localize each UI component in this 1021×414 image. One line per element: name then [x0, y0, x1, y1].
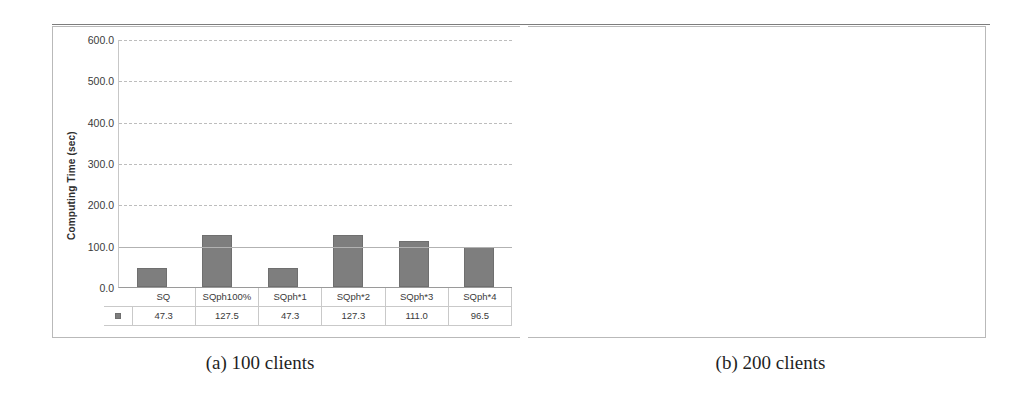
panel-a-category-label: SQph*3 — [385, 288, 448, 307]
panel-a-value-label: 111.0 — [385, 307, 448, 326]
panel-a-y-tick-label: 400.0 — [88, 117, 114, 128]
panel-a-table-header-spacer — [104, 288, 132, 307]
panel-a-bar-sqph100[interactable] — [202, 235, 232, 287]
panel-a-gridline — [119, 247, 512, 248]
panel-b-caption: (b) 200 clients — [520, 352, 1021, 374]
panel-a-value-label: 127.5 — [195, 307, 258, 326]
panel-a-category-label: SQph100% — [195, 288, 258, 307]
panel-a-category-label: SQph*2 — [322, 288, 385, 307]
panel-a-value-label: 127.3 — [322, 307, 385, 326]
panel-a-gridline — [119, 40, 512, 41]
chart-panel-b: Computing Time (sec) 600.0500.0400.0300.… — [520, 0, 1021, 414]
panel-a-bar-sqph1[interactable] — [268, 268, 298, 287]
panel-a-bar-sqph3[interactable] — [399, 241, 429, 287]
panel-a-y-tick-label: 200.0 — [88, 200, 114, 211]
panel-a-data-table: SQSQph100%SQph*1SQph*2SQph*3SQph*447.312… — [104, 288, 512, 326]
panel-a-y-tick-label: 600.0 — [88, 35, 114, 46]
panel-a-bar-sqph2[interactable] — [333, 235, 363, 287]
square-marker-icon — [115, 313, 121, 319]
panel-a-gridline — [119, 123, 512, 124]
figure-two-panel-bar-charts: Computing Time (sec) 600.0500.0400.0300.… — [0, 0, 1021, 414]
chart-panel-a: Computing Time (sec) 600.0500.0400.0300.… — [0, 0, 520, 414]
panel-a-caption: (a) 100 clients — [0, 352, 520, 374]
panel-a-category-label: SQph*4 — [448, 288, 511, 307]
panel-a-category-label: SQ — [132, 288, 195, 307]
panel-a-table-value-row: 47.3127.547.3127.3111.096.5 — [104, 307, 512, 326]
panel-a-value-label: 47.3 — [132, 307, 195, 326]
panel-a-gridline — [119, 81, 512, 82]
panel-b-top-rule — [520, 24, 990, 25]
panel-a-y-tick-label: 100.0 — [88, 241, 114, 252]
panel-a-top-rule — [52, 24, 520, 25]
panel-b-chart-border — [528, 26, 986, 338]
panel-a-legend-cell — [104, 307, 132, 326]
panel-a-value-label: 47.3 — [259, 307, 322, 326]
panel-a-gridline — [119, 164, 512, 165]
panel-a-bar-sq[interactable] — [137, 268, 167, 287]
panel-a-value-label: 96.5 — [448, 307, 511, 326]
panel-a-category-label: SQph*1 — [259, 288, 322, 307]
panel-a-table-header-row: SQSQph100%SQph*1SQph*2SQph*3SQph*4 — [104, 288, 512, 307]
panel-a-bar-sqph4[interactable] — [464, 247, 494, 287]
panel-a-plot-area — [118, 40, 512, 288]
panel-a-y-tick-label: 300.0 — [88, 159, 114, 170]
panel-a-y-tick-label: 500.0 — [88, 76, 114, 87]
panel-a-y-axis-ticks: 600.0500.0400.0300.0200.0100.00.0 — [70, 40, 114, 288]
panel-a-gridline — [119, 205, 512, 206]
